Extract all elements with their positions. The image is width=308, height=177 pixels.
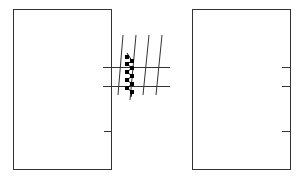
right-panel [193, 10, 291, 170]
diagram-canvas [0, 0, 308, 177]
left-panel [14, 10, 112, 170]
